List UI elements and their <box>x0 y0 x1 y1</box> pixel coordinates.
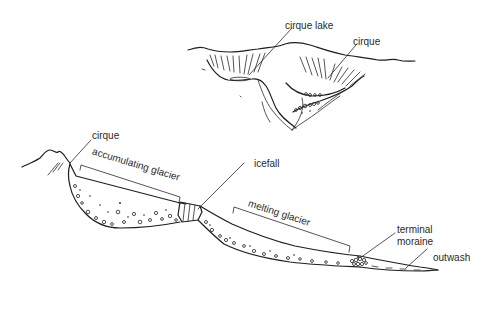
moraine-beads-lower <box>295 102 320 114</box>
label-outwash: outwash <box>433 252 470 263</box>
leader-icefall <box>198 163 244 209</box>
label-cirque-lake: cirque lake <box>285 20 333 31</box>
label-icefall: icefall <box>254 158 280 169</box>
glacier-diagram: cirque lake cirque cirque accumulating g… <box>0 0 486 313</box>
leader-cirque-lake <box>249 28 292 75</box>
label-cirque-top: cirque <box>353 36 380 47</box>
leader-cirque-profile <box>70 140 91 163</box>
label-moraine: moraine <box>397 236 433 247</box>
leader-outwash <box>406 249 427 268</box>
leader-terminal-moraine <box>360 233 395 258</box>
cirque-landscape-sketch <box>0 0 486 313</box>
label-cirque-profile: cirque <box>92 130 119 141</box>
label-terminal: terminal <box>397 224 433 235</box>
